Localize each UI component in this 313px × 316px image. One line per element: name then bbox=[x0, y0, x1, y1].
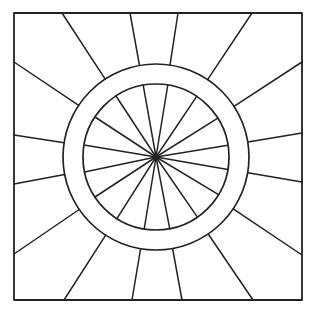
center-hub-point bbox=[154, 155, 158, 159]
radial-wheel-drawing bbox=[0, 0, 313, 316]
